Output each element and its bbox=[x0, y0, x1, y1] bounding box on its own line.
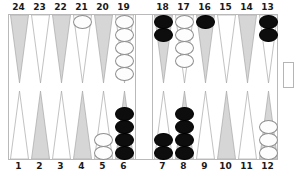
checker-stack-12[interactable] bbox=[258, 120, 279, 159]
point-3[interactable] bbox=[51, 88, 72, 159]
point-20[interactable] bbox=[93, 15, 114, 86]
checker-stack-18[interactable] bbox=[153, 15, 174, 41]
point-4[interactable] bbox=[72, 88, 93, 159]
point-2[interactable] bbox=[30, 88, 51, 159]
checker-stack-13[interactable] bbox=[258, 15, 279, 41]
point-triangle-15-icon bbox=[216, 15, 237, 86]
checker-white[interactable] bbox=[115, 67, 134, 81]
point-numbers-top-left: 24 23 22 21 20 19 bbox=[8, 1, 134, 14]
point-14[interactable] bbox=[237, 15, 258, 86]
checker-black[interactable] bbox=[175, 146, 194, 160]
point-triangle-20-icon bbox=[93, 15, 114, 86]
point-number-5: 5 bbox=[92, 160, 113, 173]
checker-white[interactable] bbox=[115, 28, 134, 42]
checker-stack-7[interactable] bbox=[153, 133, 174, 159]
point-6[interactable] bbox=[114, 88, 135, 159]
checker-black[interactable] bbox=[154, 15, 173, 29]
checker-white[interactable] bbox=[73, 15, 92, 29]
point-number-21: 21 bbox=[71, 1, 92, 14]
point-number-23: 23 bbox=[29, 1, 50, 14]
checker-black[interactable] bbox=[154, 133, 173, 147]
point-number-10: 10 bbox=[215, 160, 236, 173]
point-triangle-3-icon bbox=[51, 88, 72, 159]
checker-white[interactable] bbox=[259, 120, 278, 134]
checker-black[interactable] bbox=[259, 15, 278, 29]
point-number-8: 8 bbox=[173, 160, 194, 173]
point-triangle-22-icon bbox=[51, 15, 72, 86]
clipped-caption bbox=[8, 173, 278, 179]
checker-stack-5[interactable] bbox=[93, 133, 114, 159]
point-1[interactable] bbox=[9, 88, 30, 159]
checker-black[interactable] bbox=[196, 15, 215, 29]
quadrant-bottom-left bbox=[9, 88, 135, 159]
checker-stack-17[interactable] bbox=[174, 15, 195, 67]
checker-white[interactable] bbox=[94, 133, 113, 147]
checker-black[interactable] bbox=[115, 146, 134, 160]
bar-gap-bottom bbox=[134, 160, 152, 173]
checker-white[interactable] bbox=[175, 41, 194, 55]
checker-black[interactable] bbox=[175, 107, 194, 121]
point-number-3: 3 bbox=[50, 160, 71, 173]
point-10[interactable] bbox=[216, 88, 237, 159]
point-12[interactable] bbox=[258, 88, 279, 159]
checker-white[interactable] bbox=[259, 133, 278, 147]
point-22[interactable] bbox=[51, 15, 72, 86]
checker-black[interactable] bbox=[115, 120, 134, 134]
checker-stack-16[interactable] bbox=[195, 15, 216, 28]
point-triangle-11-icon bbox=[237, 88, 258, 159]
checker-white[interactable] bbox=[175, 28, 194, 42]
checker-black[interactable] bbox=[175, 133, 194, 147]
checker-black[interactable] bbox=[115, 107, 134, 121]
backgammon-board-figure: 24 23 22 21 20 19 18 17 16 15 14 13 bbox=[0, 0, 294, 179]
point-triangle-23-icon bbox=[30, 15, 51, 86]
checker-white[interactable] bbox=[115, 54, 134, 68]
checker-white[interactable] bbox=[115, 15, 134, 29]
checker-white[interactable] bbox=[175, 15, 194, 29]
point-number-2: 2 bbox=[29, 160, 50, 173]
point-23[interactable] bbox=[30, 15, 51, 86]
checker-white[interactable] bbox=[175, 54, 194, 68]
point-11[interactable] bbox=[237, 88, 258, 159]
point-number-16: 16 bbox=[194, 1, 215, 14]
point-number-6: 6 bbox=[113, 160, 134, 173]
point-24[interactable] bbox=[9, 15, 30, 86]
checker-black[interactable] bbox=[154, 28, 173, 42]
checker-stack-21[interactable] bbox=[72, 15, 93, 28]
point-17[interactable] bbox=[174, 15, 195, 86]
point-number-24: 24 bbox=[8, 1, 29, 14]
point-21[interactable] bbox=[72, 15, 93, 86]
point-8[interactable] bbox=[174, 88, 195, 159]
checker-white[interactable] bbox=[115, 41, 134, 55]
point-number-14: 14 bbox=[236, 1, 257, 14]
checker-black[interactable] bbox=[175, 120, 194, 134]
point-number-13: 13 bbox=[257, 1, 278, 14]
point-numbers-bottom: 1 2 3 4 5 6 7 8 9 10 11 12 bbox=[8, 160, 278, 173]
point-13[interactable] bbox=[258, 15, 279, 86]
checker-stack-19[interactable] bbox=[114, 15, 135, 80]
point-16[interactable] bbox=[195, 15, 216, 86]
checker-white[interactable] bbox=[259, 146, 278, 160]
point-number-15: 15 bbox=[215, 1, 236, 14]
checker-black[interactable] bbox=[115, 133, 134, 147]
point-triangle-1-icon bbox=[9, 88, 30, 159]
quadrant-top-left bbox=[9, 15, 135, 86]
point-9[interactable] bbox=[195, 88, 216, 159]
checker-black[interactable] bbox=[154, 146, 173, 160]
checker-white[interactable] bbox=[94, 146, 113, 160]
checker-stack-6[interactable] bbox=[114, 107, 135, 159]
point-triangle-9-icon bbox=[195, 88, 216, 159]
bearoff-tray[interactable] bbox=[283, 62, 294, 88]
point-7[interactable] bbox=[153, 88, 174, 159]
point-5[interactable] bbox=[93, 88, 114, 159]
point-19[interactable] bbox=[114, 15, 135, 86]
checker-black[interactable] bbox=[259, 28, 278, 42]
point-15[interactable] bbox=[216, 15, 237, 86]
point-18[interactable] bbox=[153, 15, 174, 86]
point-numbers-top: 24 23 22 21 20 19 18 17 16 15 14 13 bbox=[8, 1, 278, 14]
checker-stack-8[interactable] bbox=[174, 107, 195, 159]
point-number-11: 11 bbox=[236, 160, 257, 173]
point-numbers-bottom-left: 1 2 3 4 5 6 bbox=[8, 160, 134, 173]
point-number-4: 4 bbox=[71, 160, 92, 173]
center-bar[interactable] bbox=[135, 15, 153, 159]
point-number-1: 1 bbox=[8, 160, 29, 173]
